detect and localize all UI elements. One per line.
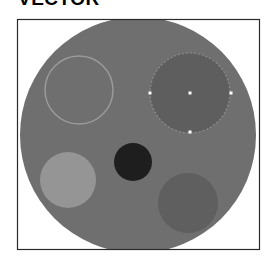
outlined-circle[interactable]: [45, 56, 113, 124]
handle-right[interactable]: [230, 92, 233, 95]
handle-center[interactable]: [189, 92, 192, 95]
lower-right-circle[interactable]: [158, 173, 218, 233]
large-disc[interactable]: [20, 17, 256, 253]
light-gray-circle[interactable]: [40, 152, 96, 208]
handle-left[interactable]: [149, 92, 152, 95]
handle-bottom[interactable]: [189, 131, 192, 134]
vector-canvas: [0, 0, 278, 267]
dark-circle[interactable]: [114, 143, 152, 181]
